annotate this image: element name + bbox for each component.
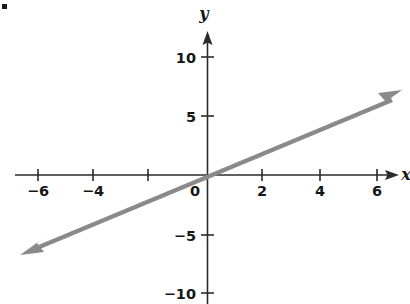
x-tick-label-2: 2 <box>257 183 267 199</box>
line-arrow-right-icon <box>377 90 402 108</box>
y-tick-label-5: 5 <box>186 109 196 125</box>
coordinate-plane: −6 −4 2 4 6 10 5 −5 −10 0 y x <box>0 0 410 304</box>
x-tick-label-neg4: −4 <box>82 183 104 199</box>
y-tick-label-10: 10 <box>176 50 196 66</box>
y-axis-label: y <box>198 4 210 23</box>
y-tick-label-neg10: −10 <box>164 286 196 302</box>
graph-figure: −6 −4 2 4 6 10 5 −5 −10 0 y x <box>0 0 410 304</box>
origin-label: 0 <box>190 183 200 199</box>
x-tick-label-4: 4 <box>315 183 325 199</box>
y-tick-label-neg5: −5 <box>174 228 196 244</box>
x-axis-label: x <box>400 165 410 184</box>
x-tick-label-neg6: −6 <box>27 183 49 199</box>
x-tick-label-6: 6 <box>372 183 382 199</box>
